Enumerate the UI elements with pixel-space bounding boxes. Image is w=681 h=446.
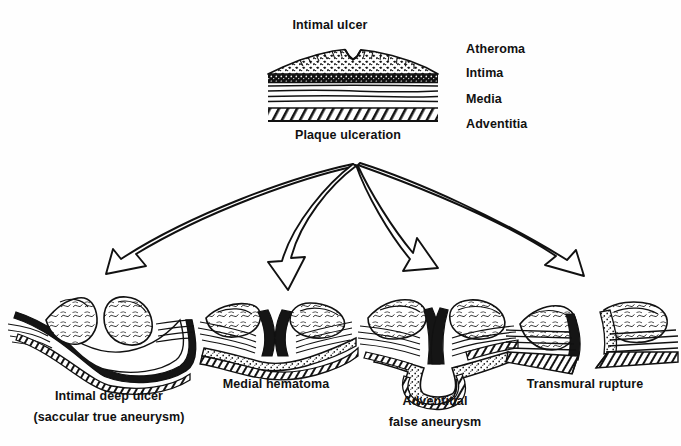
label-intimal-deep-ulcer-line1: Intimal deep ulcer — [55, 389, 163, 403]
label-transmural-rupture: Transmural rupture — [527, 377, 643, 391]
label-layer-atheroma: Atheroma — [466, 42, 525, 56]
label-layer-media: Media — [466, 92, 502, 106]
outflow-arrows — [106, 163, 584, 290]
panel-transmural-rupture — [506, 302, 678, 374]
label-medial-hematoma: Medial hematoma — [223, 377, 329, 391]
arrow-to-intimal-deep-ulcer — [106, 164, 356, 274]
label-plaque-ulceration: Plaque ulceration — [295, 128, 401, 142]
label-intimal-deep-ulcer-line2: (saccular true aneurysm) — [33, 410, 184, 424]
figure-canvas: Intimal ulcer Plaque ulceration Atheroma… — [0, 0, 681, 446]
label-adventitial-false-aneurysm-line1: Adventitial — [403, 394, 468, 408]
rupture-right-stump — [596, 302, 678, 368]
layer-media-top — [268, 85, 438, 101]
layer-adventitia-top — [268, 108, 438, 121]
label-layer-adventitia: Adventitia — [466, 117, 527, 131]
panel-medial-hematoma — [198, 303, 358, 380]
arrow-to-medial-hematoma — [268, 164, 356, 290]
arrow-to-adventitial-false-aneurysm — [356, 165, 438, 271]
label-adventitial-false-aneurysm-line2: false aneurysm — [389, 415, 481, 429]
label-intimal-ulcer: Intimal ulcer — [293, 18, 368, 32]
top-wall-illustration — [268, 50, 438, 122]
layer-atheroma-top — [268, 50, 438, 75]
arrow-to-transmural-rupture — [358, 163, 584, 276]
panel-intimal-deep-ulcer — [8, 297, 196, 394]
layer-intima-top — [268, 74, 438, 82]
label-layer-intima: Intima — [466, 66, 503, 80]
